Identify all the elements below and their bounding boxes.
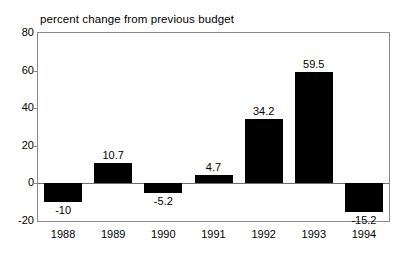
y-axis-tick-mark [33, 183, 37, 184]
bar-chart: percent change from previous budget 8060… [0, 0, 408, 258]
bar-value-label: 34.2 [228, 105, 300, 117]
y-axis-tick-label: 80 [4, 27, 34, 38]
y-axis-tick-labels: 806040200-20 [0, 0, 34, 258]
bar[interactable] [44, 183, 82, 202]
x-axis-tick-label: 1990 [138, 228, 188, 240]
zero-baseline [38, 183, 389, 184]
x-axis-tick-label: 1991 [188, 228, 238, 240]
x-axis-tick-label: 1993 [289, 228, 339, 240]
x-axis-tick-label: 1989 [88, 228, 138, 240]
plot-area: -1010.7-5.24.734.259.5-15.2 [38, 33, 389, 221]
bar[interactable] [94, 163, 132, 183]
x-axis-tick-label: 1994 [339, 228, 389, 240]
bar[interactable] [144, 183, 182, 193]
y-axis-tick-mark [33, 108, 37, 109]
bar-value-label: 59.5 [278, 58, 350, 70]
bar[interactable] [345, 183, 383, 212]
bar-value-label: 4.7 [178, 161, 250, 173]
y-axis-tick-label: 20 [4, 140, 34, 151]
bar[interactable] [245, 119, 283, 183]
x-axis-tick-label: 1992 [239, 228, 289, 240]
y-axis-tick-label: 40 [4, 102, 34, 113]
y-axis-tick-mark [33, 146, 37, 147]
bar-value-label: -5.2 [127, 195, 199, 207]
bar-value-label: -10 [27, 204, 99, 216]
y-axis-tick-label: 0 [4, 177, 34, 188]
y-axis-tick-label: 60 [4, 65, 34, 76]
x-axis-tick-label: 1988 [38, 228, 88, 240]
y-axis-tick-mark [33, 71, 37, 72]
bar[interactable] [295, 72, 333, 184]
bar-value-label: -15.2 [328, 214, 400, 226]
chart-title: percent change from previous budget [40, 12, 234, 26]
bar-value-label: 10.7 [77, 149, 149, 161]
y-axis-tick-label: -20 [4, 215, 34, 226]
bar[interactable] [195, 175, 233, 184]
